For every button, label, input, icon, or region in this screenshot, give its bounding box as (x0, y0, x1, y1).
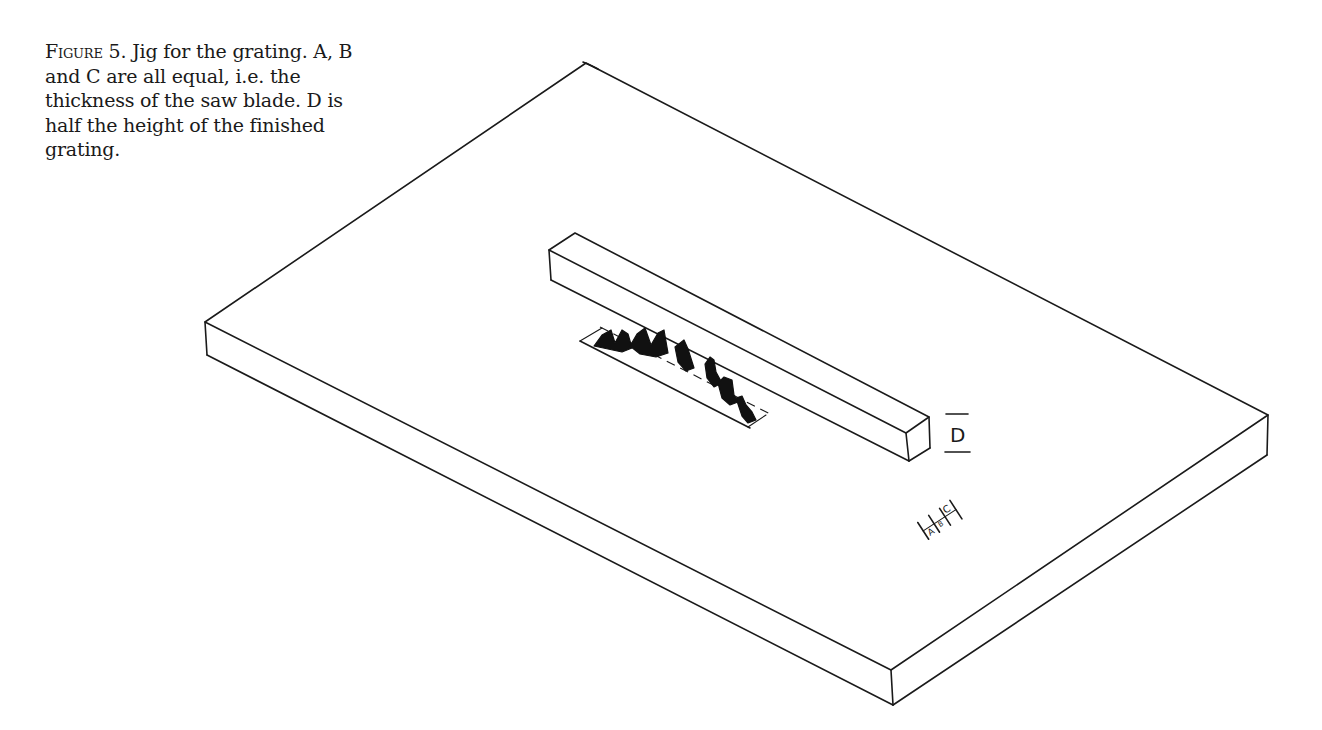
base-board (205, 62, 1268, 705)
dimension-abc: A B C (917, 500, 962, 540)
label-b: B (937, 519, 946, 528)
dimension-d: D (945, 414, 970, 452)
label-d: D (950, 423, 965, 447)
jig-diagram: D A B C (0, 0, 1322, 730)
label-a: A (926, 525, 937, 537)
